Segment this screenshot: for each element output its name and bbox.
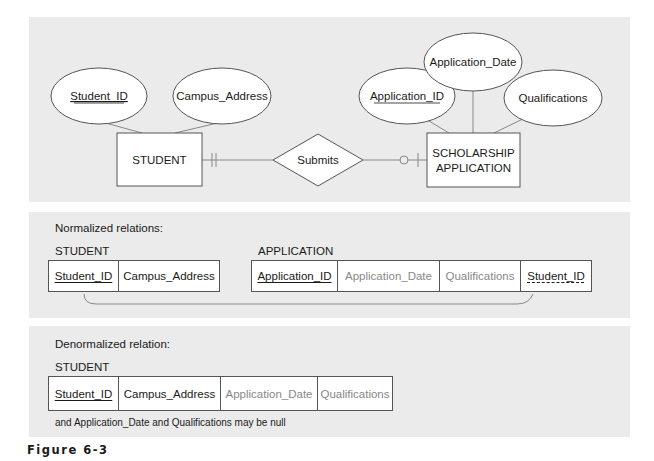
column-application-date: Application_Date <box>221 377 318 410</box>
relation-name-student-denormalized: STUDENT <box>55 361 109 373</box>
svg-text:STUDENT: STUDENT <box>132 154 186 166</box>
svg-text:Qualifications: Qualifications <box>518 92 587 104</box>
entity-student: STUDENT <box>117 133 202 186</box>
svg-text:SCHOLARSHIP: SCHOLARSHIP <box>432 147 515 159</box>
foreign-key-reference-arrow <box>29 212 630 318</box>
column-student-id: Student_ID <box>49 377 119 410</box>
er-diagram: Student_ID Campus_Address Application_ID… <box>29 17 630 202</box>
relationship-submits: Submits <box>273 134 363 186</box>
denormalized-caption: Denormalized relation: <box>55 338 170 350</box>
svg-text:Campus_Address: Campus_Address <box>176 90 268 102</box>
relation-student-denormalized: Student_ID Campus_Address Application_Da… <box>48 376 393 411</box>
optional-zero-mark <box>400 156 408 164</box>
er-diagram-panel: Student_ID Campus_Address Application_ID… <box>29 17 630 202</box>
attribute-student-id: Student_ID <box>51 68 147 124</box>
attribute-qualifications: Qualifications <box>504 70 602 126</box>
column-qualifications: Qualifications <box>318 377 392 410</box>
svg-text:Application_ID: Application_ID <box>370 90 444 102</box>
svg-text:Submits: Submits <box>297 154 339 166</box>
column-campus-address: Campus_Address <box>119 377 221 410</box>
null-note: and Application_Date and Qualifications … <box>55 417 286 428</box>
denormalized-relation-panel: Denormalized relation: STUDENT Student_I… <box>29 326 630 437</box>
figure-label: Figure 6-3 <box>27 443 108 457</box>
normalized-relations-panel: Normalized relations: STUDENT Student_ID… <box>29 212 630 318</box>
svg-text:Application_Date: Application_Date <box>430 56 517 68</box>
svg-text:APPLICATION: APPLICATION <box>436 162 511 174</box>
attribute-application-date: Application_Date <box>424 33 522 91</box>
svg-text:Student_ID: Student_ID <box>70 90 128 102</box>
entity-scholarship-application: SCHOLARSHIP APPLICATION <box>427 133 520 187</box>
attribute-campus-address: Campus_Address <box>173 68 271 124</box>
